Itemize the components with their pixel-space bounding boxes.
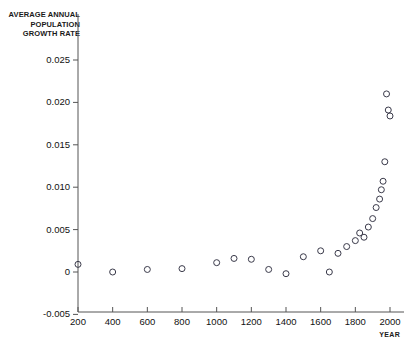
data-point xyxy=(373,205,379,211)
data-point xyxy=(352,238,358,244)
data-point xyxy=(326,269,332,275)
x-axis-ticks xyxy=(78,307,390,312)
data-point xyxy=(144,266,150,272)
y-axis-ticks xyxy=(73,60,78,314)
x-tick-label: 2000 xyxy=(370,316,410,327)
y-tick-label: 0.005 xyxy=(26,224,70,235)
data-point xyxy=(266,266,272,272)
data-point xyxy=(365,224,371,230)
data-point xyxy=(378,187,384,193)
data-point xyxy=(344,244,350,250)
data-point xyxy=(214,260,220,266)
data-point xyxy=(335,250,341,256)
data-point xyxy=(387,113,393,119)
data-point xyxy=(377,196,383,202)
data-point xyxy=(231,255,237,261)
data-point xyxy=(110,269,116,275)
data-point xyxy=(179,266,185,272)
y-tick-label: 0.010 xyxy=(26,181,70,192)
data-point xyxy=(361,234,367,240)
data-point xyxy=(382,159,388,165)
y-tick-label: 0.015 xyxy=(26,139,70,150)
data-point xyxy=(370,216,376,222)
chart-root: AVERAGE ANNUAL POPULATION GROWTH RATE YE… xyxy=(0,0,411,343)
data-point xyxy=(300,254,306,260)
y-tick-label: 0.020 xyxy=(26,96,70,107)
plot-area xyxy=(0,0,411,343)
data-points xyxy=(75,91,393,277)
y-tick-label: 0.025 xyxy=(26,54,70,65)
y-tick-label: 0 xyxy=(26,266,70,277)
data-point xyxy=(384,91,390,97)
data-point xyxy=(385,107,391,113)
data-point xyxy=(283,271,289,277)
data-point xyxy=(318,248,324,254)
data-point xyxy=(248,256,254,262)
data-point xyxy=(380,178,386,184)
